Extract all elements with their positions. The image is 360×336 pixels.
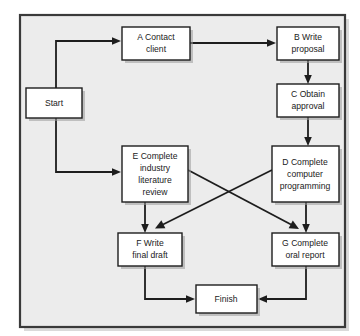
node-c-label-line-0: C Obtain	[291, 89, 325, 99]
node-a-contact-client[interactable]: A Contact client	[122, 27, 193, 63]
finish-node[interactable]: Finish	[196, 285, 260, 316]
node-f-label-line-0: F Write	[136, 238, 164, 248]
node-d-label-line-1: computer	[287, 169, 323, 179]
node-d-computer-programming[interactable]: D Complete computer programming	[272, 146, 342, 205]
node-f-label-line-1: final draft	[132, 250, 168, 260]
node-f-write-final-draft[interactable]: F Write final draft	[118, 233, 185, 269]
node-e-label-line-3: review	[143, 187, 169, 197]
node-d-label-line-2: programming	[280, 181, 331, 191]
diagram-canvas: Start A Contact client B Write proposal	[0, 0, 360, 336]
node-e-label-line-0: E Complete	[133, 151, 178, 161]
node-b-label-line-1: proposal	[292, 44, 325, 54]
node-e-industry-literature-review[interactable]: E Complete industry literature review	[122, 146, 191, 205]
node-a-label-line-0: A Contact	[137, 32, 175, 42]
node-e-label-line-2: literature	[138, 175, 172, 185]
start-node[interactable]: Start	[26, 88, 85, 121]
node-g-label-line-0: G Complete	[282, 238, 328, 248]
node-b-write-proposal[interactable]: B Write proposal	[277, 27, 342, 63]
node-c-obtain-approval[interactable]: C Obtain approval	[277, 84, 342, 120]
node-e-label-line-1: industry	[140, 163, 171, 173]
node-d-label-line-0: D Complete	[282, 157, 328, 167]
node-a-label-line-1: client	[146, 44, 167, 54]
node-b-label-line-0: B Write	[294, 32, 322, 42]
flowchart-svg: Start A Contact client B Write proposal	[0, 0, 360, 336]
node-c-label-line-1: approval	[292, 101, 325, 111]
start-node-label-line-0: Start	[45, 98, 64, 108]
finish-node-label-line-0: Finish	[215, 294, 238, 304]
node-g-complete-oral-report[interactable]: G Complete oral report	[272, 233, 342, 269]
node-g-label-line-1: oral report	[285, 250, 325, 260]
